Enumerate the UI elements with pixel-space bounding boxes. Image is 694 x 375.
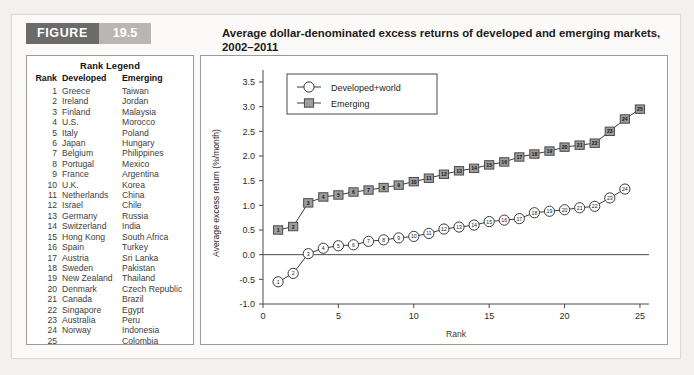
developed-cell: Italy bbox=[62, 128, 122, 138]
x-axis-tick-label: 5 bbox=[336, 311, 341, 321]
y-axis-tick-label: 1.0 bbox=[242, 201, 255, 211]
emerging-cell: Russia bbox=[122, 211, 193, 221]
rank-cell: 9 bbox=[27, 169, 62, 179]
emerging-cell: Chile bbox=[122, 200, 193, 210]
data-point-label: 5 bbox=[337, 243, 340, 249]
table-row: 14SwitzerlandIndia bbox=[27, 221, 193, 231]
legend-label-emerging: Emerging bbox=[331, 99, 370, 109]
rank-cell: 7 bbox=[27, 148, 62, 158]
data-point-label: 18 bbox=[532, 210, 538, 216]
table-row: 24NorwayIndonesia bbox=[27, 325, 193, 335]
emerging-cell: Mexico bbox=[122, 159, 193, 169]
data-point-label: 12 bbox=[441, 171, 447, 177]
rank-cell: 5 bbox=[27, 128, 62, 138]
table-row: 2IrelandJordan bbox=[27, 96, 193, 106]
legend-marker-emerging bbox=[304, 99, 313, 107]
table-row: 7BelgiumPhilippines bbox=[27, 148, 193, 158]
developed-cell: Australia bbox=[62, 315, 122, 325]
excess-returns-line-chart: -1.0-0.50.00.51.01.52.02.53.03.505101520… bbox=[201, 56, 665, 342]
y-axis-tick-label: 0.5 bbox=[242, 225, 255, 235]
emerging-cell: Hungary bbox=[122, 138, 193, 148]
data-point-label: 22 bbox=[592, 203, 598, 209]
data-point-label: 7 bbox=[367, 238, 370, 244]
x-axis-tick-label: 0 bbox=[260, 311, 265, 321]
data-point-label: 6 bbox=[352, 242, 355, 248]
data-point-label: 16 bbox=[501, 217, 507, 223]
developed-cell: New Zealand bbox=[62, 273, 122, 283]
y-axis-tick-label: -0.5 bbox=[239, 275, 255, 285]
figure-header: FIGURE 19.5 Average dollar-denominated e… bbox=[26, 23, 666, 45]
data-point-label: 3 bbox=[307, 251, 310, 257]
data-point-label: 10 bbox=[411, 233, 417, 239]
rank-legend-body: 1GreeceTaiwan2IrelandJordan3FinlandMalay… bbox=[27, 86, 193, 346]
table-row: 1GreeceTaiwan bbox=[27, 86, 193, 96]
rank-cell: 23 bbox=[27, 315, 62, 325]
emerging-cell: Poland bbox=[122, 128, 193, 138]
data-point-label: 2 bbox=[292, 270, 295, 276]
data-point-label: 20 bbox=[562, 207, 568, 213]
emerging-cell: China bbox=[122, 190, 193, 200]
table-row: 10U.K.Korea bbox=[27, 180, 193, 190]
legend-marker-developed bbox=[304, 82, 314, 92]
developed-cell: France bbox=[62, 169, 122, 179]
rank-cell: 11 bbox=[27, 190, 62, 200]
y-axis-tick-label: 3.0 bbox=[242, 102, 255, 112]
data-point-label: 17 bbox=[516, 154, 522, 160]
rank-cell: 19 bbox=[27, 273, 62, 283]
data-point-label: 14 bbox=[471, 165, 477, 171]
emerging-cell: Colombia bbox=[122, 336, 193, 346]
emerging-cell: Jordan bbox=[122, 96, 193, 106]
table-row: 25Colombia bbox=[27, 336, 193, 346]
rank-cell: 21 bbox=[27, 294, 62, 304]
data-point-label: 8 bbox=[382, 185, 385, 191]
developed-cell bbox=[62, 336, 122, 346]
emerging-cell: South Africa bbox=[122, 232, 193, 242]
figure-number: 19.5 bbox=[99, 23, 151, 44]
developed-cell: Spain bbox=[62, 242, 122, 252]
column-header-developed: Developed bbox=[62, 73, 122, 86]
table-row: 8PortugalMexico bbox=[27, 159, 193, 169]
data-point-label: 13 bbox=[456, 168, 462, 174]
emerging-cell: Egypt bbox=[122, 305, 193, 315]
y-axis-tick-label: 2.0 bbox=[242, 151, 255, 161]
y-axis-tick-label: 2.5 bbox=[242, 127, 255, 137]
series-line-developed bbox=[278, 189, 625, 282]
table-row: 13GermanyRussia bbox=[27, 211, 193, 221]
table-row: 16SpainTurkey bbox=[27, 242, 193, 252]
rank-cell: 22 bbox=[27, 305, 62, 315]
emerging-cell: Argentina bbox=[122, 169, 193, 179]
table-row: 23AustraliaPeru bbox=[27, 315, 193, 325]
developed-cell: Finland bbox=[62, 107, 122, 117]
y-axis-tick-label: 0.0 bbox=[242, 250, 255, 260]
table-row: 4U.S.Morocco bbox=[27, 117, 193, 127]
emerging-cell: Czech Republic bbox=[122, 284, 193, 294]
developed-cell: Netherlands bbox=[62, 190, 122, 200]
figure-card: FIGURE 19.5 Average dollar-denominated e… bbox=[11, 14, 681, 359]
developed-cell: Japan bbox=[62, 138, 122, 148]
data-point-label: 11 bbox=[426, 175, 432, 181]
y-axis-tick-label: 3.5 bbox=[242, 77, 255, 87]
data-point-label: 6 bbox=[352, 189, 355, 195]
emerging-cell: India bbox=[122, 221, 193, 231]
data-point-label: 12 bbox=[441, 226, 447, 232]
data-point-label: 18 bbox=[532, 151, 538, 157]
developed-cell: Greece bbox=[62, 86, 122, 96]
table-row: 15Hong KongSouth Africa bbox=[27, 232, 193, 242]
table-row: 19New ZealandThailand bbox=[27, 273, 193, 283]
emerging-cell: Thailand bbox=[122, 273, 193, 283]
data-point-label: 24 bbox=[622, 186, 628, 192]
table-row: 3FinlandMalaysia bbox=[27, 107, 193, 117]
data-point-label: 22 bbox=[592, 140, 598, 146]
rank-legend-panel: Rank Legend Rank Developed Emerging 1Gre… bbox=[26, 55, 194, 345]
data-point-label: 5 bbox=[337, 192, 340, 198]
rank-cell: 6 bbox=[27, 138, 62, 148]
emerging-cell: Turkey bbox=[122, 242, 193, 252]
data-point-label: 13 bbox=[456, 224, 462, 230]
developed-cell: Germany bbox=[62, 211, 122, 221]
rank-cell: 18 bbox=[27, 263, 62, 273]
emerging-cell: Sri Lanka bbox=[122, 253, 193, 263]
table-row: 18SwedenPakistan bbox=[27, 263, 193, 273]
developed-cell: Israel bbox=[62, 200, 122, 210]
emerging-cell: Taiwan bbox=[122, 86, 193, 96]
table-row: 22SingaporeEgypt bbox=[27, 305, 193, 315]
